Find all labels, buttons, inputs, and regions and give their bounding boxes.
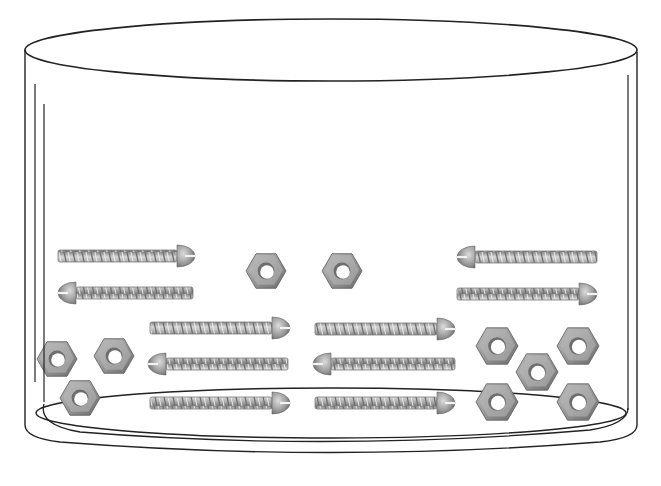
nut-hole [491, 340, 505, 354]
nut-hole [572, 396, 586, 410]
hex-nut [476, 328, 518, 364]
screw [457, 246, 597, 268]
screw-thread [76, 287, 193, 299]
screw [313, 353, 455, 375]
nut-hole [260, 265, 274, 279]
screw-thread [315, 323, 437, 335]
container-rim [25, 19, 637, 81]
container-floor [36, 388, 626, 438]
nut-hole [74, 392, 88, 406]
hex-nut [557, 384, 599, 420]
container-inner-bottom [43, 404, 628, 442]
screw-thread [150, 397, 272, 409]
nut-hole [51, 353, 65, 367]
screw-thread [315, 397, 437, 409]
screw-thread [331, 358, 455, 370]
screw-thread [150, 322, 272, 334]
nut-hole [491, 396, 505, 410]
screw-thread [475, 251, 597, 263]
hex-nut [94, 339, 134, 374]
hex-nut [476, 384, 518, 420]
screw [315, 392, 455, 414]
hex-nut [60, 381, 100, 416]
nut-hole [572, 340, 586, 354]
screw-thread [166, 358, 288, 370]
hex-nut [322, 254, 362, 289]
container-drawing [0, 0, 661, 486]
screw [148, 353, 288, 375]
nut-hole [531, 366, 545, 380]
screw [457, 283, 597, 305]
screw-thread [58, 250, 177, 262]
hex-nut [246, 254, 286, 289]
hex-nut [516, 354, 558, 390]
screw [58, 282, 193, 304]
hex-nut [37, 342, 77, 377]
nut-hole [336, 265, 350, 279]
screw [150, 317, 290, 339]
hex-nut [557, 328, 599, 364]
illustration-scene: Container of screws and nuts [0, 0, 661, 486]
nut-hole [108, 350, 122, 364]
screw-thread [457, 288, 579, 300]
screw [58, 245, 195, 267]
screw [315, 318, 455, 340]
screw [150, 392, 290, 414]
